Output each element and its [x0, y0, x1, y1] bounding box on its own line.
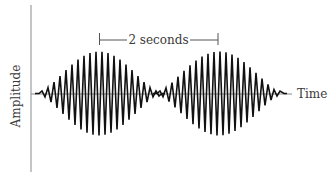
- y-axis-label: Amplitude: [9, 65, 23, 129]
- period-bracket: 2 seconds: [100, 33, 219, 47]
- x-axis-label: Time: [297, 87, 327, 101]
- period-label: 2 seconds: [128, 33, 188, 47]
- wave-packet-diagram: Amplitude Time 2 seconds: [0, 0, 333, 186]
- wave-packet-2: [153, 52, 287, 136]
